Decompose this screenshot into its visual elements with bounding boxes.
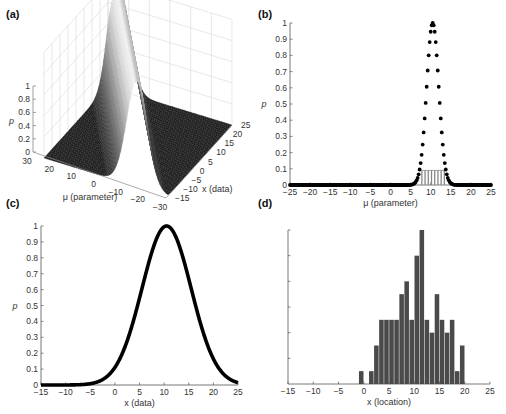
figure: (a) (b) (c) (d) 00.20.40.60.81p3020100−1… [0,0,506,414]
mu-tick-label: −30 [153,202,168,212]
y-axis-label: p [260,99,266,109]
y-tick-label: 0.8 [275,50,287,60]
panel-label-c: (c) [6,197,20,209]
histogram-bar [399,294,404,384]
x-data-tick-label: 0 [200,166,205,176]
data-point [434,40,438,44]
z-tick-label: 0.2 [18,134,30,144]
histogram-bar [374,346,379,385]
y-tick-label: 0.2 [26,348,38,358]
x-data-tick-label: 5 [208,157,213,167]
data-point [424,101,428,105]
x-tick-label: −5 [366,187,376,197]
y-tick-label: 0.4 [26,316,38,326]
data-point [443,161,447,165]
data-point [419,161,423,165]
data-point [438,101,442,105]
panel-c-line-plot: −15−10−5051015202500.10.20.30.40.50.60.7… [11,221,243,408]
x-tick-label: 5 [387,386,392,396]
x-tick-label: 0 [361,386,366,396]
x-axis-label: x (location) [367,397,411,407]
data-point [416,176,420,180]
x-tick-label: 20 [460,386,470,396]
x-tick-label: −20 [303,187,318,197]
data-point [433,30,437,34]
panel-label-b: (b) [258,8,272,20]
data-point [432,23,436,27]
y-tick-label: 0.2 [275,148,287,158]
panel-label-d: (d) [258,197,272,209]
y-tick-label: 0.8 [26,253,38,263]
x-tick-label: 0 [388,187,393,197]
y-tick-label: 0.5 [275,99,287,109]
histogram-bar [389,320,394,384]
x-tick-label: 20 [209,387,219,397]
histogram-bar [404,281,409,384]
x-tick-label: −5 [334,386,344,396]
histogram-bar [440,320,445,384]
data-point [445,172,449,176]
z-tick-label: 0.8 [18,94,30,104]
histogram-bar [369,371,374,384]
panel-label-a: (a) [6,8,20,20]
mu-tick-label: 30 [22,156,32,166]
mu-tick-label: −20 [131,194,146,204]
data-point [441,143,445,147]
y-tick-label: 0.1 [275,164,287,174]
mu-tick-label: 0 [91,179,96,189]
y-tick-label: 0.7 [26,269,38,279]
data-point [426,69,430,73]
data-point [436,69,440,73]
x-data-tick-label: −15 [175,193,190,203]
y-tick-label: 0.5 [26,301,38,311]
x-data-tick-label: 20 [233,129,243,139]
y-axis-label: p [11,301,17,311]
histogram-bar [384,320,389,384]
x-tick-label: 10 [410,386,420,396]
histogram-bar [455,371,460,384]
gaussian-curve [41,226,238,385]
x-tick-label: 5 [408,187,413,197]
histogram-bar [420,230,425,384]
x-tick-label: 10 [159,387,169,397]
y-tick-label: 0 [33,380,38,390]
histogram-bar [379,320,384,384]
data-point [418,168,422,172]
panel-d-histogram: −15−10−50510152025x (location) [281,230,495,407]
z-tick-label: 1 [25,81,30,91]
histogram-bar [435,294,440,384]
data-point [417,172,421,176]
data-point [435,53,439,57]
x-data-tick-label: 15 [225,138,235,148]
x-data-tick-label: −10 [183,184,198,194]
x-tick-label: 0 [113,387,118,397]
mu-axis-label: μ (parameter) [63,192,118,202]
histogram-bar [425,320,430,384]
histogram-bar [460,346,465,385]
data-point [428,40,432,44]
data-point [444,168,448,172]
x-data-tick-label: −5 [192,175,202,185]
histogram-bar [450,320,455,384]
x-data-tick-label: 10 [216,147,226,157]
y-tick-label: 0.3 [26,332,38,342]
x-tick-label: 15 [184,387,194,397]
mu-tick-label: 20 [44,164,54,174]
data-point [421,143,425,147]
x-axis-label: x (data) [124,398,155,408]
z-axis-label: p [8,116,14,126]
z-tick-label: 0.6 [18,107,30,117]
histogram-bar [409,320,414,384]
y-tick-label: 1 [282,18,287,28]
data-point [420,153,424,157]
x-tick-label: 20 [466,187,476,197]
y-tick-label: 0.7 [275,67,287,77]
x-tick-label: 25 [485,386,495,396]
y-tick-label: 0.6 [275,83,287,93]
data-point [429,30,433,34]
data-point [442,153,446,157]
x-tick-label: 10 [426,187,436,197]
y-tick-label: 0.9 [26,237,38,247]
x-tick-label: −10 [343,187,358,197]
histogram-bar [394,320,399,384]
